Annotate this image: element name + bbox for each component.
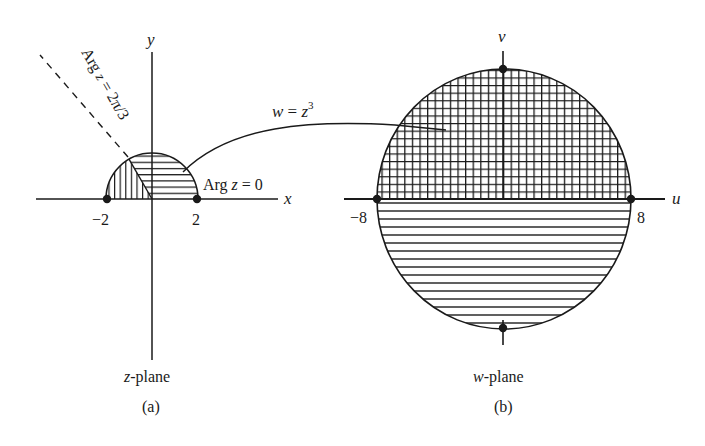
w-lower-horizontal-hatch <box>370 199 640 339</box>
tick-label-neg2: −2 <box>92 211 109 228</box>
w-upper-grid-hatch <box>370 60 640 200</box>
w-point-bottom <box>499 324 507 332</box>
x-axis-label: x <box>283 189 292 208</box>
w-point-top <box>499 65 507 73</box>
mapping-label: w = z3 <box>272 99 314 121</box>
arg-zero-label: Arg z = 0 <box>203 176 263 194</box>
z-point-pos2 <box>193 195 201 203</box>
caption-b: (b) <box>494 398 513 416</box>
u-axis-label: u <box>672 189 681 208</box>
caption-a: (a) <box>142 398 160 416</box>
conformal-mapping-figure: y x −2 2 Arg z = 0 Arg z = 2π/3 z-plane … <box>0 0 705 446</box>
tick-label-2: 2 <box>192 211 200 228</box>
tick-label-8: 8 <box>637 209 645 226</box>
w-plane-panel: v u −8 8 w-plane (b) <box>344 27 681 416</box>
z-point-neg2 <box>103 195 111 203</box>
z-plane-panel: y x −2 2 Arg z = 0 Arg z = 2π/3 z-plane … <box>36 30 292 416</box>
tick-label-neg8: −8 <box>350 209 367 226</box>
w-point-neg8 <box>373 195 381 203</box>
w-point-pos8 <box>627 195 635 203</box>
y-axis-label: y <box>145 30 155 49</box>
w-plane-label: w-plane <box>473 368 524 386</box>
arg-2pi3-label: Arg z = 2π/3 <box>78 45 133 123</box>
v-axis-label: v <box>498 27 506 46</box>
z-plane-label: z-plane <box>123 368 170 386</box>
